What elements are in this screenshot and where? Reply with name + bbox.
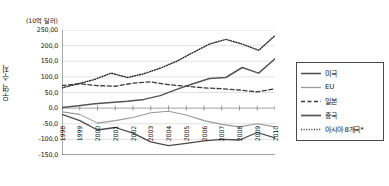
legend-line-swatch-icon	[301, 83, 321, 92]
x-tick-label: 2005	[183, 126, 190, 141]
legend-item[interactable]: 일본	[301, 94, 380, 108]
legend-item-label: 미국	[325, 68, 337, 78]
x-tick-label: 2008	[236, 126, 243, 141]
series-line-2	[62, 82, 275, 92]
y-tick-label: -150,0	[39, 151, 58, 159]
y-tick-label: 250,00	[37, 26, 58, 34]
legend-item[interactable]: 미국	[301, 66, 380, 80]
x-axis-tick-labels: 1998199920002001200220032004200520062007…	[62, 124, 275, 164]
x-tick-label: 2002	[130, 126, 137, 141]
y-axis-tick-labels: 250,00200,0150,0100,050,00,0-50,0-100,0-…	[14, 0, 58, 186]
legend-item-label: 아시아 8개국*	[325, 124, 364, 134]
series-line-3	[62, 59, 275, 108]
legend-item[interactable]: 중국	[301, 108, 380, 122]
legend-line-swatch-icon	[301, 97, 321, 106]
x-tick-label: 1998	[59, 126, 66, 141]
legend-line-swatch-icon	[301, 125, 321, 134]
y-tick-label: 0,0	[48, 104, 58, 112]
legend-item-label: 일본	[325, 96, 337, 106]
x-tick-label: 2003	[147, 126, 154, 141]
x-tick-label: 2007	[218, 126, 225, 141]
legend-item-label: EU	[325, 83, 334, 91]
y-tick-label: 200,0	[41, 42, 58, 50]
y-tick-label: -100,0	[39, 135, 58, 143]
legend-line-swatch-icon	[301, 69, 321, 78]
y-tick-label: 100,0	[41, 73, 58, 81]
x-tick-label: 2006	[201, 126, 208, 141]
x-tick-label: 1999	[76, 126, 83, 141]
x-tick-label: 2004	[165, 126, 172, 141]
x-tick-label: 2000	[94, 126, 101, 141]
legend-item[interactable]: EU	[301, 80, 380, 94]
legend-item[interactable]: 아시아 8개국*	[301, 122, 380, 136]
x-tick-label: 2010	[272, 126, 279, 141]
x-tick-label: 2001	[112, 126, 119, 141]
y-tick-label: 50,0	[45, 89, 58, 97]
y-tick-label: 150,0	[41, 57, 58, 65]
y-axis-label: 무역 수지	[1, 64, 12, 101]
legend-item-label: 중국	[325, 110, 337, 120]
legend-line-swatch-icon	[301, 111, 321, 120]
chart-container: (10억 달러) 무역 수지 250,00200,0150,0100,050,0…	[0, 0, 389, 186]
chart-legend: 미국EU일본중국아시아 8개국*	[296, 62, 384, 141]
series-line-4	[62, 36, 275, 88]
x-tick-label: 2009	[254, 126, 261, 141]
y-tick-label: -50,0	[42, 120, 58, 128]
